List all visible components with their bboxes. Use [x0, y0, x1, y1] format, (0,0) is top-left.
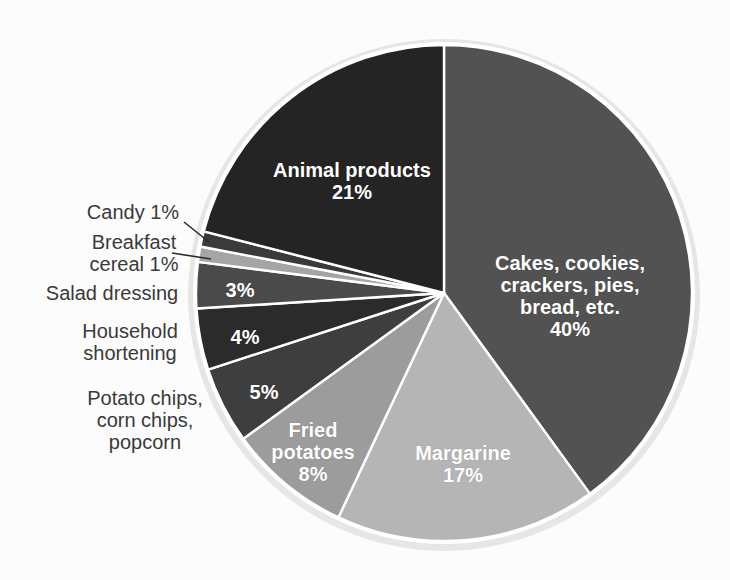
- pie-chart-canvas: [0, 0, 730, 580]
- pie-slices-group: [196, 45, 692, 541]
- pie-chart-figure: Cakes, cookies, crackers, pies, bread, e…: [0, 0, 730, 580]
